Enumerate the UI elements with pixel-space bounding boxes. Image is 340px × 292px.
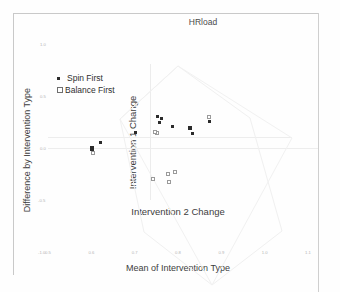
rotated-frame-outline (0, 0, 340, 292)
data-point-balance-first (153, 130, 157, 134)
data-point-spin-first (90, 146, 94, 150)
data-point-balance-first (207, 115, 211, 119)
data-point-balance-first (167, 180, 171, 184)
data-point-balance-first (151, 177, 155, 181)
data-point-spin-first (158, 121, 161, 124)
data-point-spin-first (191, 132, 194, 135)
data-point-spin-first (160, 117, 163, 120)
data-point-spin-first (188, 126, 192, 130)
data-point-spin-first (208, 120, 211, 123)
data-point-spin-first (156, 115, 159, 118)
data-point-balance-first (173, 170, 177, 174)
data-point-spin-first (171, 125, 174, 128)
data-point-spin-first (134, 131, 137, 134)
data-point-spin-first (99, 141, 102, 144)
data-point-balance-first (91, 151, 95, 155)
data-point-balance-first (166, 172, 170, 176)
chart-figure: HRload Mean of Intervention Type Differe… (0, 0, 340, 292)
